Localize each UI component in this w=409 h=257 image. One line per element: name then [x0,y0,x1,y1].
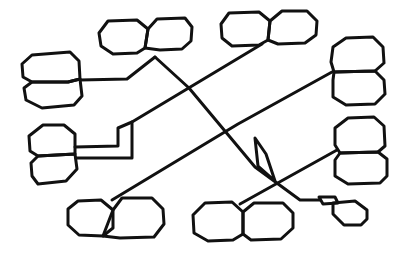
octagon-node [24,79,82,108]
connector-line-left-middle-upper-step [75,122,132,147]
octagon-pair-top-right [221,11,317,46]
octagon-pair-top-center-left [99,18,192,54]
octagon-node [22,52,80,82]
octagon-node [333,201,367,225]
octagon-node [268,11,317,44]
octagon-node [243,203,293,240]
octagon-pair-left-upper [22,52,82,108]
diagram-canvas [0,0,409,257]
octagon-pair-right-upper [331,37,385,105]
octagon-pair-left-middle [29,125,77,184]
octagon-node [221,12,270,46]
octagon-pair-bottom-left [68,198,164,238]
connector-lines-group [75,44,337,204]
octagon-node [31,154,77,184]
octagon-pair-bottom-center [193,202,293,241]
octagon-node [29,125,75,156]
octagon-node [99,20,148,54]
octagon-node [335,152,387,184]
octagon-node [193,202,243,241]
octagon-pair-right-middle [335,117,387,184]
octagon-node [335,117,385,153]
octagon-node [333,71,385,105]
connector-line-top-center-long-diagonal [155,57,320,200]
octagon-node [331,37,384,72]
connector-line-left-upper-to-top-center [80,57,155,80]
octagon-pair-bottom-right-small [319,197,367,225]
octagon-pairs-group [22,11,387,241]
octagon-network-diagram [0,0,409,257]
connector-line-right-upper-to-bottom-left [112,72,332,200]
octagon-node [145,18,192,50]
